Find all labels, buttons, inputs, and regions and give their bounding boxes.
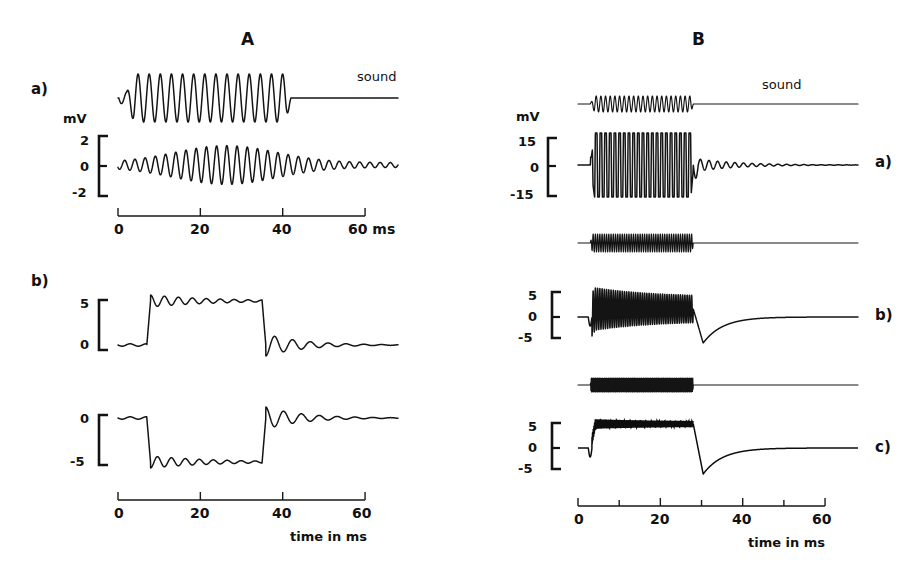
time-axis-a: [118, 208, 365, 216]
scale-bracket-b-a: [548, 138, 557, 196]
trace-B-a-response: [578, 133, 858, 197]
scale-bracket-a-b-lower: [99, 415, 108, 465]
trace-B-c-sound: [578, 378, 858, 392]
time-axis-a: [118, 492, 365, 500]
figure-canvas: A B a) mV 2 0 -2 sound 0 20 40 60 ms b) …: [0, 0, 924, 570]
trace-B-b-sound: [578, 234, 858, 252]
scale-bracket-a-a: [99, 136, 108, 196]
scale-bracket-b-c: [552, 423, 561, 469]
trace-A-a-response: [118, 146, 398, 185]
scale-bracket-a-b-upper: [99, 300, 108, 350]
trace-B-a-sound: [578, 96, 858, 112]
trace-B-b-response: [578, 288, 858, 343]
trace-layer: [0, 0, 924, 570]
trace-B-c-response: [578, 419, 858, 474]
scale-bracket-b-b: [552, 292, 561, 338]
trace-A-b-response-lower: [118, 407, 398, 468]
trace-A-a-sound: [118, 74, 398, 122]
trace-A-b-response-upper: [118, 295, 398, 356]
time-axis-b: [578, 498, 825, 506]
